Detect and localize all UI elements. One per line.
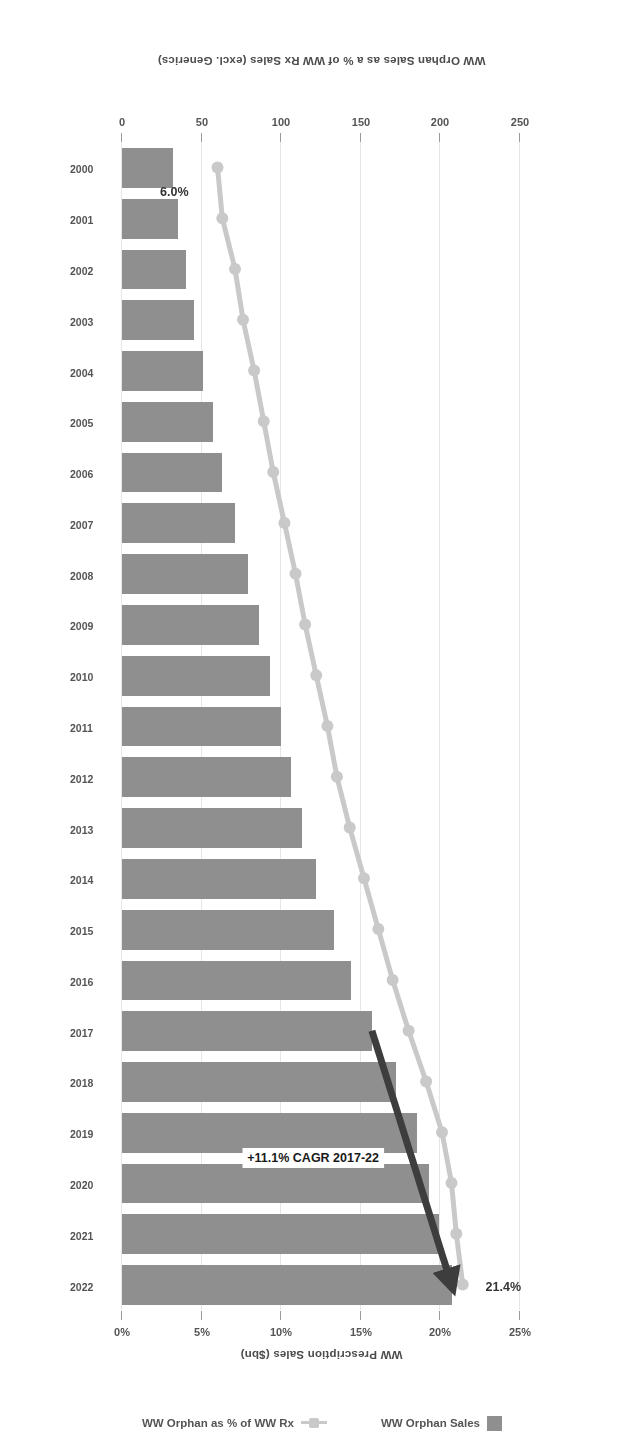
value-axis-tick <box>121 133 122 142</box>
legend-item-orphan-sales[interactable]: WW Orphan Sales <box>381 1416 502 1431</box>
line-end-value-label: 21.4% <box>471 1280 521 1294</box>
line-start-value-label: 6.0% <box>160 185 208 199</box>
value-axis-tick-label: 0 <box>102 116 142 128</box>
value-axis-title: WW Prescription Sales ($bn) <box>0 1349 643 1361</box>
category-label: 2016 <box>70 976 114 988</box>
line-marker-icon <box>301 1417 327 1431</box>
category-label: 2022 <box>70 1281 114 1293</box>
category-label: 2019 <box>70 1128 114 1140</box>
value-axis-tick <box>280 133 281 142</box>
percent-axis-tick-label: 10% <box>259 1326 303 1338</box>
category-label: 2006 <box>70 468 114 480</box>
category-label: 2014 <box>70 874 114 886</box>
category-label: 2010 <box>70 671 114 683</box>
value-axis-tick <box>439 133 440 142</box>
category-label: 2005 <box>70 417 114 429</box>
legend-label-orphan-percent: WW Orphan as % of WW Rx <box>141 1418 293 1430</box>
category-label: 2011 <box>70 722 114 734</box>
category-label: 2002 <box>70 265 114 277</box>
value-axis-tick-label: 100 <box>261 116 301 128</box>
category-label: 2018 <box>70 1077 114 1089</box>
bar-swatch-icon <box>487 1416 502 1431</box>
percent-axis-tick-label: 15% <box>339 1326 383 1338</box>
rotated-figure-wrapper: WW Orphan Sales as a % of WW Rx Sales (e… <box>0 0 643 1451</box>
percent-axis-tick <box>360 1311 361 1320</box>
percent-axis-tick <box>121 1311 122 1320</box>
category-label: 2017 <box>70 1027 114 1039</box>
percent-axis-tick <box>280 1311 281 1320</box>
percent-axis-tick-label: 5% <box>180 1326 224 1338</box>
value-axis-tick-label: 250 <box>500 116 540 128</box>
percent-axis-tick-label: 20% <box>418 1326 462 1338</box>
cagr-annotation: +11.1% CAGR 2017-22 <box>242 1148 384 1168</box>
category-label: 2003 <box>70 316 114 328</box>
percent-axis-tick-label: 25% <box>498 1326 542 1338</box>
category-label: 2021 <box>70 1230 114 1242</box>
category-label: 2000 <box>70 163 114 175</box>
category-label: 2007 <box>70 519 114 531</box>
value-axis-tick <box>201 133 202 142</box>
category-label: 2015 <box>70 925 114 937</box>
legend-item-orphan-percent[interactable]: WW Orphan as % of WW Rx <box>141 1417 326 1431</box>
percent-axis-tick <box>201 1311 202 1320</box>
legend-label-orphan-sales: WW Orphan Sales <box>381 1418 480 1430</box>
percent-axis-tick <box>439 1311 440 1320</box>
category-label: 2020 <box>70 1179 114 1191</box>
value-axis-tick-label: 150 <box>341 116 381 128</box>
plot-area <box>122 142 520 1310</box>
category-label: 2001 <box>70 214 114 226</box>
value-axis-tick-label: 50 <box>182 116 222 128</box>
percent-axis-title: WW Orphan Sales as a % of WW Rx Sales (e… <box>0 55 643 67</box>
category-label: 2004 <box>70 367 114 379</box>
chart-figure: WW Orphan Sales as a % of WW Rx Sales (e… <box>0 0 643 1451</box>
percent-axis-tick <box>519 1311 520 1320</box>
percent-axis-tick-label: 0% <box>100 1326 144 1338</box>
value-axis-tick <box>360 133 361 142</box>
chart-legend: WW Orphan Sales WW Orphan as % of WW Rx <box>0 1416 643 1431</box>
cagr-arrow <box>122 142 520 1310</box>
category-label: 2013 <box>70 824 114 836</box>
category-label: 2008 <box>70 570 114 582</box>
value-axis-tick <box>519 133 520 142</box>
category-label: 2009 <box>70 620 114 632</box>
value-axis-tick-label: 200 <box>420 116 460 128</box>
category-label: 2012 <box>70 773 114 785</box>
